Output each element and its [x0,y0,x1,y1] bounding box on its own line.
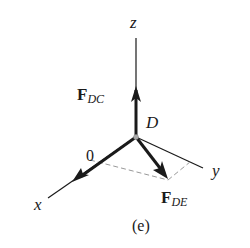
y-axis [136,137,203,168]
force-de-subscript: DE [171,195,187,209]
point-d-marker [134,135,139,140]
zero-force-arrowhead-icon [72,168,89,182]
force-dc-label: FDC [77,86,104,103]
force-de-arrow [136,137,163,172]
x-axis-label: x [34,196,42,213]
zero-force-label: 0 [86,148,94,164]
force-de-symbol: F [161,188,171,207]
point-d-label: D [146,114,158,131]
y-axis-label: y [212,162,220,179]
dashed-projection-y [168,162,190,180]
force-dc-subscript: DC [87,92,104,106]
z-axis-label: z [130,14,137,31]
figure-caption: (e) [132,218,150,234]
free-body-diagram: z FDC D 0 y x FDE (e) [0,0,250,248]
force-dc-symbol: F [77,85,87,104]
force-de-label: FDE [161,189,187,206]
